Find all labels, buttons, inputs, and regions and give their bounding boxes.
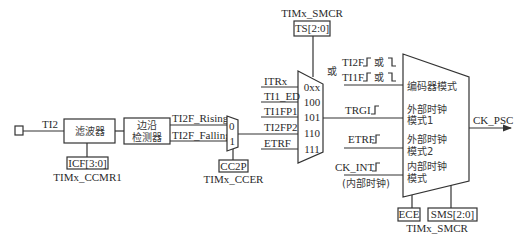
mode-ext1-line1: 外部时钟 xyxy=(407,103,447,115)
ccer-label: TIMx_CCER xyxy=(204,173,265,185)
ck-int-note: (内部时钟) xyxy=(342,177,390,189)
edge-detector-label-1: 边沿 xyxy=(137,120,157,131)
filter-label: 滤波器 xyxy=(75,125,105,137)
ti2f-rising-label: TI2F_Rising xyxy=(172,112,229,124)
ti2-label: TI2 xyxy=(42,118,58,130)
code-100: 100 xyxy=(304,96,321,108)
falling-edge-icon xyxy=(388,73,396,81)
itrx-label: ITRx xyxy=(264,75,288,87)
polarity-mux-input-0: 0 xyxy=(229,120,235,132)
etrf-input-label: ETRF xyxy=(264,137,291,149)
encoder-or-label: 或 xyxy=(327,66,337,77)
polarity-mux-input-1: 1 xyxy=(230,135,236,147)
smcr-bottom-label: TIMx_SMCR xyxy=(406,222,468,234)
etrf-label: ETRF xyxy=(348,133,375,145)
ts-register-label: TS[2:0] xyxy=(295,22,329,34)
icf-register-label: ICF[3:0] xyxy=(68,157,107,169)
cc2p-register-label: CC2P xyxy=(220,160,246,172)
ece-register-label: ECE xyxy=(399,208,420,220)
smcr-top-label: TIMx_SMCR xyxy=(281,7,343,19)
ck-psc-label: CK_PSC xyxy=(473,114,513,126)
trgi-label: TRGI xyxy=(345,104,371,116)
code-101: 101 xyxy=(304,111,321,123)
mode-int-line2: 模式 xyxy=(407,172,427,184)
ti1f-or-text: 或 xyxy=(374,72,384,83)
rising-edge-icon xyxy=(363,58,371,66)
edge-detector-label-2: 检测器 xyxy=(132,131,162,143)
mode-ext1-line2: 模式1 xyxy=(407,114,433,126)
code-111: 111 xyxy=(304,143,320,155)
rising-edge-icon xyxy=(371,106,379,114)
sms-register-label: SMS[2:0] xyxy=(431,208,474,220)
ti1fp1-label: TI1FP1 xyxy=(264,105,298,117)
input-pin xyxy=(15,126,23,135)
mode-encoder: 编码器模式 xyxy=(407,80,457,92)
mode-int-line1: 内部时钟 xyxy=(407,160,447,172)
ti2fp2-label: TI2FP2 xyxy=(264,121,298,133)
mode-ext2-line2: 模式2 xyxy=(407,145,433,157)
mode-ext2-line1: 外部时钟 xyxy=(407,133,447,145)
timer-clock-diagram: TI2 滤波器 ICF[3:0] TIMx_CCMR1 边沿 检测器 TI2F_… xyxy=(0,0,526,243)
ck-int-label: CK_INT xyxy=(335,161,374,173)
ti2f-or-text: 或 xyxy=(374,57,384,68)
code-0xx: 0xx xyxy=(304,81,321,93)
ti1-ed-label: TI1_ED xyxy=(264,90,300,102)
ccmr1-label: TIMx_CCMR1 xyxy=(53,171,121,183)
falling-edge-icon xyxy=(388,58,396,66)
ti2f-label: TI2F xyxy=(342,56,364,68)
code-110: 110 xyxy=(304,127,321,139)
ti2f-falling-label: TI2F_Falling xyxy=(172,129,231,141)
ti1f-label: TI1F xyxy=(342,71,364,83)
rising-edge-icon xyxy=(363,73,371,81)
